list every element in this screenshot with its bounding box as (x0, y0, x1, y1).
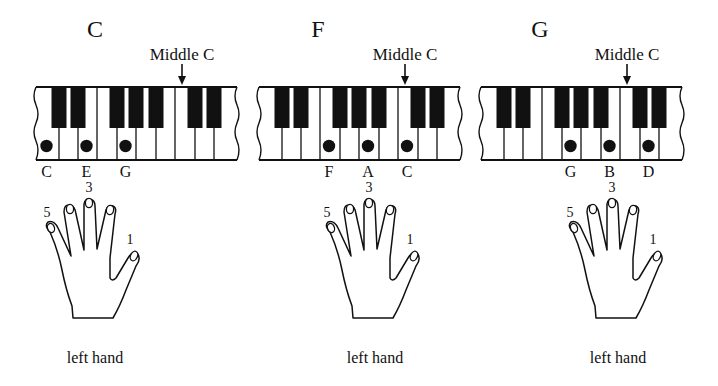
chord-title: G (531, 16, 548, 42)
chord-title: C (87, 16, 103, 42)
chord-title: F (311, 16, 324, 42)
finger-number-3: 3 (609, 180, 616, 195)
black-key (497, 87, 512, 128)
black-key (71, 87, 86, 128)
black-key (430, 87, 445, 128)
black-key (372, 87, 387, 128)
finger-number-5: 5 (567, 205, 574, 220)
chord-diagram: CMiddle CCEGleft hand531FMiddle CFACleft… (0, 0, 718, 386)
note-dot (362, 140, 374, 152)
black-key (52, 87, 67, 128)
note-label: C (402, 163, 413, 180)
note-dot (603, 140, 615, 152)
black-key (411, 87, 426, 128)
black-key (352, 87, 367, 128)
note-label: D (643, 163, 655, 180)
black-key (149, 87, 164, 128)
black-key (129, 87, 144, 128)
black-key (110, 87, 125, 128)
hand-caption: left hand (347, 349, 403, 366)
black-key (188, 87, 203, 128)
piano-keyboard (479, 87, 684, 160)
black-key (207, 87, 222, 128)
black-key (275, 87, 290, 128)
black-key (294, 87, 309, 128)
fingernail-icon (346, 204, 353, 213)
black-key (594, 87, 609, 128)
note-dot (642, 140, 654, 152)
hand-outline (569, 199, 662, 318)
left-hand-c: 531 (44, 180, 140, 318)
finger-number-5: 5 (324, 205, 331, 220)
note-dot (564, 140, 576, 152)
black-key (555, 87, 570, 128)
finger-number-1: 1 (650, 232, 657, 247)
chord-panel-c: CMiddle CCEGleft hand (34, 16, 239, 366)
hand-caption: left hand (67, 349, 123, 366)
finger-number-1: 1 (127, 232, 134, 247)
fingernail-icon (365, 198, 372, 207)
note-label: C (41, 163, 52, 180)
note-label: F (325, 163, 334, 180)
middle-c-label: Middle C (150, 45, 215, 64)
middle-c-label: Middle C (595, 45, 660, 64)
arrow-down-icon (623, 76, 631, 85)
black-key (574, 87, 589, 128)
fingernail-icon (608, 198, 615, 207)
finger-number-3: 3 (86, 180, 93, 195)
fingernail-icon (85, 198, 92, 207)
finger-number-3: 3 (366, 180, 373, 195)
piano-keyboard (34, 87, 239, 160)
middle-c-label: Middle C (373, 45, 438, 64)
hand-outline (46, 199, 139, 318)
hand-caption: left hand (590, 349, 646, 366)
finger-number-5: 5 (44, 205, 51, 220)
black-key (633, 87, 648, 128)
note-label: B (604, 163, 615, 180)
left-hand-g: 531 (567, 180, 663, 318)
note-dot (119, 140, 131, 152)
note-dot (323, 140, 335, 152)
note-dot (80, 140, 92, 152)
note-dot (40, 140, 52, 152)
fingernail-icon (589, 204, 596, 213)
note-label: A (362, 163, 374, 180)
fingernail-icon (66, 204, 73, 213)
piano-keyboard (257, 87, 462, 160)
note-label: G (120, 163, 132, 180)
arrow-down-icon (401, 76, 409, 85)
arrow-down-icon (178, 76, 186, 85)
black-key (516, 87, 531, 128)
black-key (333, 87, 348, 128)
black-key (652, 87, 667, 128)
chord-panel-g: GMiddle CGBDleft hand (479, 16, 684, 366)
finger-number-1: 1 (407, 232, 414, 247)
note-dot (401, 140, 413, 152)
note-label: E (82, 163, 92, 180)
note-label: G (565, 163, 577, 180)
hand-outline (326, 199, 419, 318)
left-hand-f: 531 (324, 180, 420, 318)
